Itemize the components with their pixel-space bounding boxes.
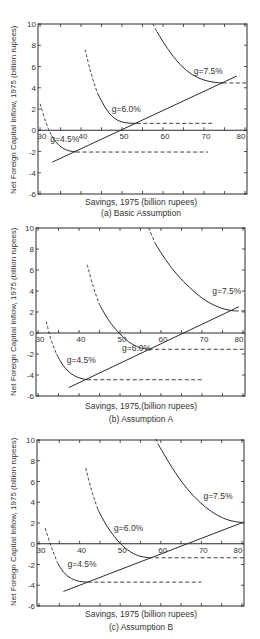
curve-solid bbox=[159, 445, 242, 522]
y-tick-label: 6 bbox=[31, 478, 36, 487]
y-tick-label: 8 bbox=[31, 457, 36, 466]
y-tick-label: 2 bbox=[31, 519, 36, 528]
x-tick-label: 70 bbox=[199, 546, 208, 555]
x-tick-label: 50 bbox=[118, 546, 127, 555]
envelope-line bbox=[63, 522, 244, 592]
chart-c-svg: -6-4-20246810304050607080g=4.5%g=6.0%g=7… bbox=[0, 0, 260, 639]
figure: -6-4-20246810304050607080g=4.5%g=6.0%g=7… bbox=[0, 0, 260, 639]
x-tick-label: 80 bbox=[234, 546, 243, 555]
y-tick-label: -6 bbox=[28, 602, 36, 611]
y-tick-label: 0 bbox=[31, 540, 36, 549]
x-axis-label-c: Savings, 1975 (billion rupees) bbox=[36, 609, 246, 619]
series-label: g=7.5% bbox=[203, 491, 233, 501]
series-label: g=4.5% bbox=[67, 559, 97, 569]
series-label: g=6.0% bbox=[114, 523, 144, 533]
caption-c: (c) Assumption B bbox=[36, 622, 246, 632]
panel-c: -6-4-20246810304050607080g=4.5%g=6.0%g=7… bbox=[0, 0, 260, 639]
x-tick-label: 30 bbox=[37, 546, 46, 555]
y-tick-label: 10 bbox=[26, 436, 35, 445]
y-tick-label: 4 bbox=[31, 498, 36, 507]
y-axis-label-c: Net Foreign Capital Inflow, 1975 (billio… bbox=[9, 437, 18, 606]
curve-dashed bbox=[86, 468, 98, 510]
y-tick-label: -4 bbox=[28, 581, 36, 590]
x-tick-label: 40 bbox=[77, 546, 86, 555]
y-tick-label: -2 bbox=[28, 561, 36, 570]
curve-dashed bbox=[45, 528, 57, 562]
